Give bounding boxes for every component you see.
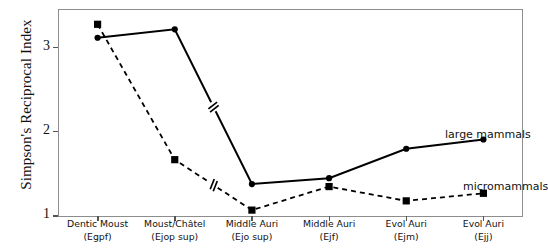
data-point-circle: [249, 181, 255, 187]
series-line: [98, 29, 484, 184]
x-axis-label-line1: Middle Auri: [226, 218, 278, 229]
series-canvas: [59, 10, 522, 216]
y-tick-label: 3: [10, 38, 50, 54]
y-tick-mark: [53, 131, 58, 133]
y-tick-mark: [53, 215, 58, 217]
y-tick-label: 2: [10, 122, 50, 138]
x-axis-label-line2: (Ejj): [428, 231, 538, 244]
x-axis-label-5: Evol Auri(Ejj): [428, 218, 538, 243]
data-point-circle: [172, 26, 178, 32]
axis-break-mark: [206, 100, 220, 114]
data-point-square: [94, 21, 101, 28]
plot-inner: [59, 10, 522, 216]
data-point-square: [403, 197, 410, 204]
x-axis-label-line1: Middle Auri: [303, 218, 355, 229]
data-point-circle: [403, 146, 409, 152]
plot-area: large mammals micromammals: [58, 9, 523, 217]
data-point-square: [171, 156, 178, 163]
series-large-mammals: [94, 26, 486, 187]
x-axis-label-line1: Evol Auri: [386, 218, 427, 229]
y-tick-mark: [53, 47, 58, 49]
data-point-square: [248, 207, 255, 214]
data-point-circle: [94, 35, 100, 41]
data-point-square: [325, 183, 332, 190]
series-label-large-mammals: large mammals: [445, 128, 531, 141]
series-line: [98, 24, 484, 210]
axis-break-mark: [206, 178, 220, 193]
series-micromammals: [94, 21, 487, 214]
y-axis-title: Simpson's Reciprocal Index: [18, 5, 35, 205]
data-point-circle: [326, 175, 332, 181]
x-axis-label-line1: Evol Auri: [463, 218, 504, 229]
series-label-micromammals: micromammals: [463, 180, 548, 193]
